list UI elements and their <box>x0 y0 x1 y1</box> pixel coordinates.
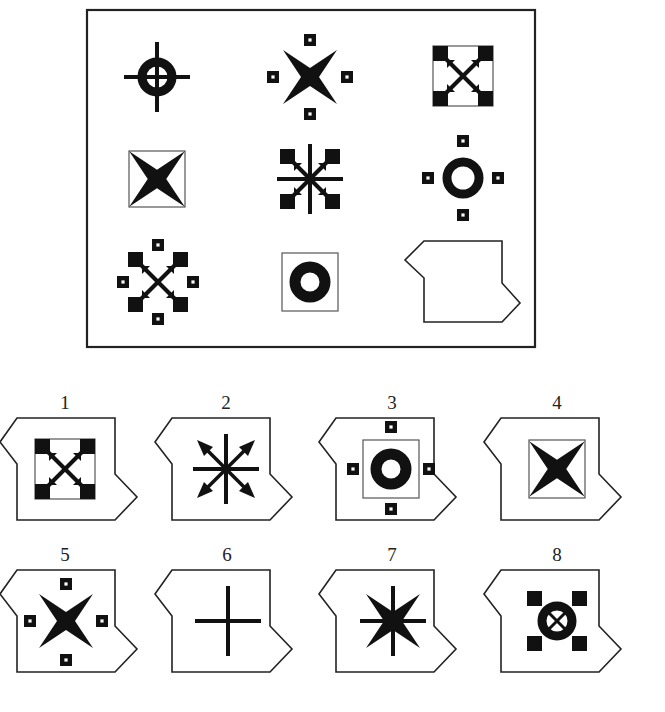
option-7[interactable] <box>319 570 456 672</box>
option-7-label: 7 <box>372 544 412 566</box>
option-5-label: 5 <box>45 544 85 566</box>
option-6[interactable] <box>155 570 292 672</box>
option-5[interactable] <box>0 570 137 672</box>
cell-2-2-arrows-cross-icon <box>277 144 343 214</box>
option-2-label: 2 <box>206 392 246 414</box>
puzzle-canvas <box>0 0 665 712</box>
option-2-arrows-cross-icon <box>193 434 259 504</box>
option-3[interactable] <box>319 418 456 520</box>
puzzle-stage: 1 2 3 4 5 6 7 8 <box>0 0 665 712</box>
option-1-label: 1 <box>45 392 85 414</box>
option-4-label: 4 <box>537 392 577 414</box>
option-8[interactable] <box>484 570 621 672</box>
option-3-label: 3 <box>372 392 412 414</box>
option-8-label: 8 <box>537 544 577 566</box>
option-4[interactable] <box>484 418 621 520</box>
option-6-label: 6 <box>207 544 247 566</box>
option-1[interactable] <box>0 418 137 520</box>
option-2[interactable] <box>155 418 292 520</box>
